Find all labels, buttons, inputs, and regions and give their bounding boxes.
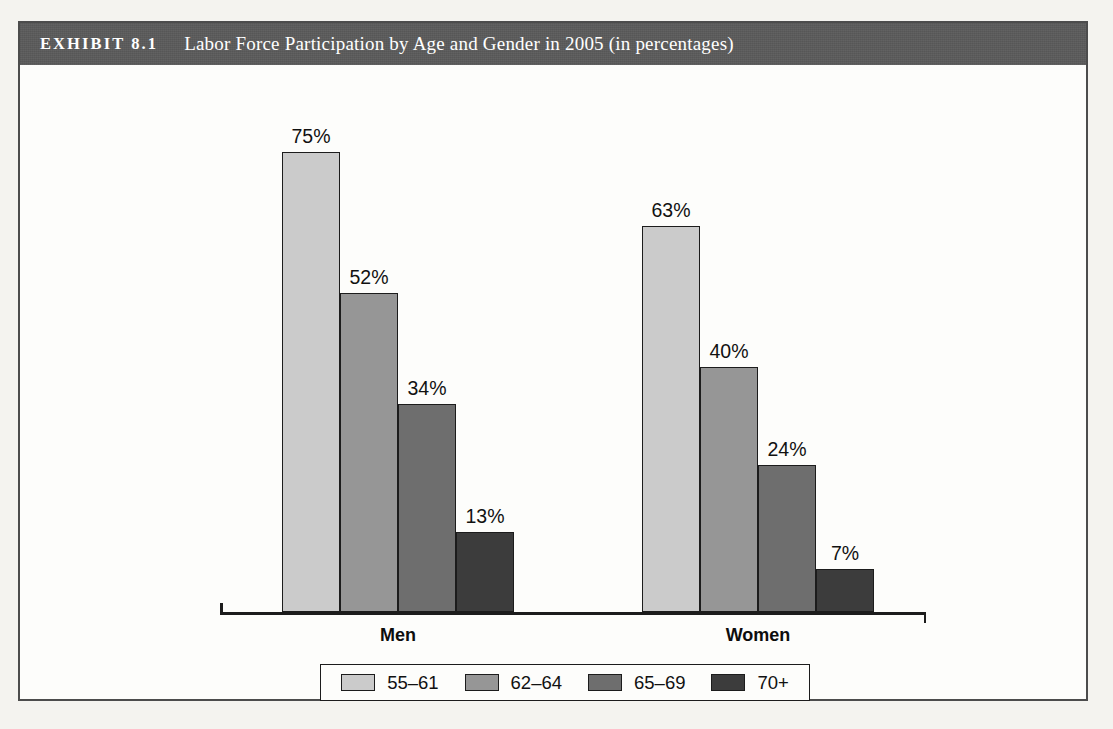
legend-swatch [341,674,375,691]
x-axis-line [220,612,926,615]
legend-label: 65–69 [634,672,685,694]
legend-item-55–61: 55–61 [341,672,438,694]
legend-swatch [588,674,622,691]
bar-men-55–61 [282,152,340,612]
axis-group-label-men: Men [262,625,534,646]
bar-value-label: 75% [266,125,356,148]
legend-swatch [711,674,745,691]
legend-item-62–64: 62–64 [465,672,562,694]
chart-plot-area: 75%52%34%13%63%40%24%7% Men Women 55–616… [20,65,1086,699]
legend-label: 55–61 [387,672,438,694]
axis-group-label-women: Women [622,625,894,646]
x-axis-tick-left [220,603,223,614]
bar-value-label: 7% [800,542,890,565]
legend-item-65–69: 65–69 [588,672,685,694]
x-axis-tick-right [924,612,927,623]
bar-women-62–64 [700,367,758,612]
bar-value-label: 40% [684,340,774,363]
legend-item-70+: 70+ [711,672,788,694]
legend-label: 70+ [757,672,788,694]
bar-value-label: 34% [382,377,472,400]
legend-label: 62–64 [511,672,562,694]
exhibit-title: Labor Force Participation by Age and Gen… [184,33,734,55]
bar-women-65–69 [758,465,816,612]
chart-legend: 55–6162–6465–6970+ [320,664,810,701]
bar-men-70+ [456,532,514,612]
legend-swatch [465,674,499,691]
exhibit-number: EXHIBIT 8.1 [40,34,158,54]
bar-value-label: 52% [324,266,414,289]
bar-value-label: 13% [440,505,530,528]
bar-women-70+ [816,569,874,612]
bar-value-label: 24% [742,438,832,461]
bar-chart: 75%52%34%13%63%40%24%7% [20,65,1086,699]
exhibit-header: EXHIBIT 8.1 Labor Force Participation by… [20,23,1086,65]
bar-women-55–61 [642,226,700,612]
exhibit-frame: EXHIBIT 8.1 Labor Force Participation by… [18,21,1088,701]
bar-value-label: 63% [626,199,716,222]
bar-men-62–64 [340,293,398,612]
